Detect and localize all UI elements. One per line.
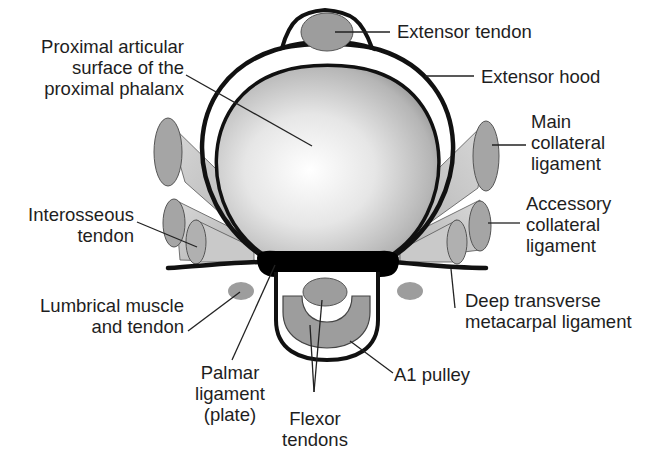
label-extensor-tendon: Extensor tendon bbox=[397, 21, 532, 42]
label-palmar-ligament: Palmar ligament (plate) bbox=[180, 362, 280, 425]
label-main-collateral-ligament: Main collateral ligament bbox=[531, 111, 605, 174]
flexor-digitorum-profundus bbox=[303, 278, 347, 306]
label-flexor-tendons: Flexor tendons bbox=[275, 408, 355, 450]
label-interosseous-tendon: Interosseous tendon bbox=[10, 204, 134, 246]
proximal-phalanx-articular-surface bbox=[216, 65, 439, 256]
right-lumbrical bbox=[397, 282, 423, 300]
label-lumbrical-muscle: Lumbrical muscle and tendon bbox=[20, 295, 184, 337]
label-deep-transverse-metacarpal-ligament: Deep transverse metacarpal ligament bbox=[465, 290, 632, 332]
diagram-canvas: Extensor tendon Extensor hood Proximal a… bbox=[0, 0, 656, 458]
label-a1-pulley: A1 pulley bbox=[394, 364, 470, 385]
label-accessory-collateral-ligament: Accessory collateral ligament bbox=[526, 193, 611, 256]
label-extensor-hood: Extensor hood bbox=[481, 66, 600, 87]
label-proximal-articular-surface: Proximal articular surface of the proxim… bbox=[20, 36, 184, 99]
